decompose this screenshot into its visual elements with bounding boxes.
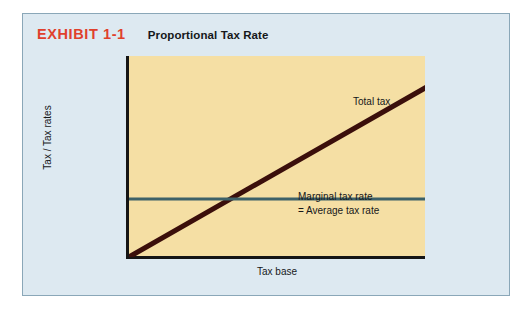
plot-lines: [129, 56, 425, 257]
chart-figure: Tax / Tax rates Tax base Total tax Margi…: [23, 14, 511, 297]
marginal-average-tax-rate-annotation: Marginal tax rate = Average tax rate: [298, 190, 379, 218]
total-tax-line: [129, 88, 425, 257]
y-axis-label: Tax / Tax rates: [42, 83, 53, 193]
total-tax-annotation: Total tax: [353, 96, 390, 107]
x-axis-label: Tax base: [129, 266, 425, 277]
marginal-tax-rate-text: Marginal tax rate: [298, 190, 379, 204]
exhibit-panel: EXHIBIT 1-1 Proportional Tax Rate Tax / …: [22, 13, 510, 296]
average-tax-rate-text: = Average tax rate: [298, 204, 379, 218]
